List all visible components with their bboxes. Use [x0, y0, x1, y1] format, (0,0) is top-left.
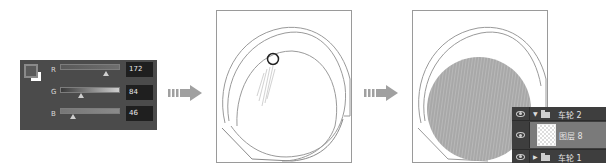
arrow-right-icon — [364, 85, 400, 101]
value-field-g[interactable]: 84 — [126, 85, 153, 100]
slider-thumb-b[interactable] — [70, 114, 76, 119]
visibility-toggle[interactable] — [512, 150, 530, 163]
slider-r[interactable] — [60, 64, 120, 70]
folder-icon — [541, 155, 550, 161]
eye-icon — [516, 132, 525, 138]
layer-name: 车轮 2 — [558, 109, 582, 120]
folder-icon — [541, 112, 550, 118]
slider-g[interactable] — [60, 87, 120, 93]
layers-panel: ▼ 车轮 2 图层 8 ▶ 车轮 1 — [512, 107, 606, 163]
layer-group-row[interactable]: ▼ 车轮 2 — [512, 107, 606, 121]
layer-name: 图层 8 — [559, 130, 583, 141]
value-field-r[interactable]: 172 — [126, 62, 153, 77]
slider-b[interactable] — [60, 108, 120, 114]
channel-label-g: G — [51, 88, 56, 96]
layer-group-row[interactable]: ▶ 车轮 1 — [512, 149, 606, 163]
channel-label-b: B — [51, 110, 56, 118]
slider-thumb-g[interactable] — [78, 93, 84, 98]
channel-label-r: R — [51, 66, 56, 74]
layer-row-selected[interactable]: 图层 8 — [512, 122, 606, 148]
color-panel: R 172 G 84 B 46 — [20, 60, 157, 130]
foreground-color-swatch[interactable] — [24, 64, 38, 78]
layer-name: 车轮 1 — [558, 152, 582, 163]
visibility-toggle[interactable] — [512, 107, 530, 120]
collapse-triangle-icon[interactable]: ▶ — [533, 153, 538, 160]
canvas-before[interactable] — [216, 10, 352, 163]
value-field-b[interactable]: 46 — [126, 106, 153, 121]
slider-thumb-r[interactable] — [103, 71, 109, 76]
arrow-right-icon — [168, 85, 204, 101]
visibility-toggle[interactable] — [512, 122, 530, 148]
expand-triangle-icon[interactable]: ▼ — [533, 110, 538, 117]
wheel-sketch-before — [217, 11, 352, 163]
layer-thumbnail — [537, 124, 556, 146]
eye-icon — [516, 111, 525, 117]
eye-icon — [516, 154, 525, 160]
